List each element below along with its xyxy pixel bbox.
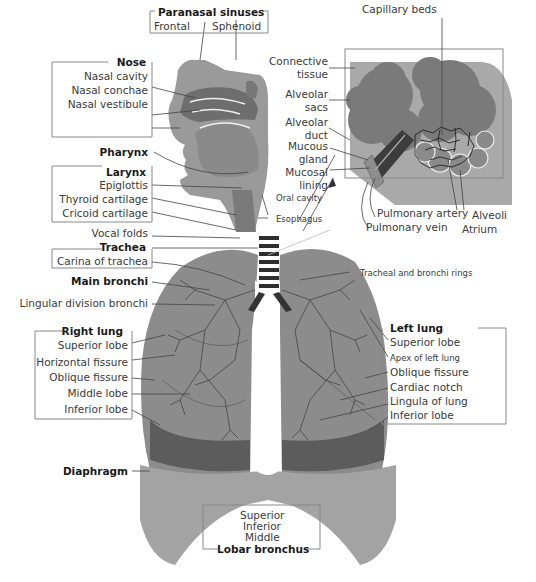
label-diaphragm: Diaphragm: [63, 465, 128, 478]
label-oral-cavity: Oral cavity: [276, 193, 322, 203]
label-cricoid-cartilage: Cricoid cartilage: [62, 207, 148, 220]
label-connective-tissue: Connective tissue: [248, 55, 328, 81]
label-tracheal-and-bronchi-rings: Tracheal and bronchi rings: [360, 268, 480, 278]
label-epiglottis: Epiglottis: [99, 179, 148, 192]
label-nasal-conchae: Nasal conchae: [71, 84, 148, 97]
label-left-oblique-fissure: Oblique fissure: [390, 366, 469, 379]
label-esophagus: Esophagus: [276, 214, 322, 224]
label-cardiac-notch: Cardiac notch: [390, 381, 463, 394]
label-carina-of-trachea: Carina of trachea: [57, 255, 148, 268]
label-alveoli: Alveoli: [472, 209, 507, 222]
label-atrium: Atrium: [462, 223, 497, 236]
respiratory-system-diagram: Paranasal sinuses Frontal Sphenoid Nose …: [0, 0, 536, 582]
label-alveolar-duct: Alveolar duct: [268, 116, 328, 142]
label-left-superior-lobe: Superior lobe: [390, 336, 460, 349]
alveoli-inset: [345, 49, 512, 205]
label-left-lung: Left lung: [390, 322, 443, 335]
label-pulmonary-vein: Pulmonary vein: [366, 221, 448, 234]
label-apex-of-left-lung: Apex of left lung: [390, 353, 460, 363]
label-frontal: Frontal: [154, 20, 190, 33]
label-trachea: Trachea: [100, 241, 146, 254]
label-nose: Nose: [117, 56, 146, 69]
label-lobar-bronchus: Lobar bronchus: [217, 543, 309, 556]
label-capillary-beds: Capillary beds: [362, 3, 437, 16]
label-right-inferior-lobe: Inferior lobe: [64, 403, 128, 416]
label-alveolar-sacs: Alveolar sacs: [268, 88, 328, 114]
label-right-superior-lobe: Superior lobe: [58, 339, 128, 352]
label-nasal-vestibule: Nasal vestibule: [68, 98, 148, 111]
head-neck: [168, 60, 268, 232]
label-larynx: Larynx: [106, 166, 146, 179]
label-main-bronchi: Main bronchi: [71, 275, 148, 288]
label-right-oblique-fissure: Oblique fissure: [49, 371, 128, 384]
label-paranasal-sinuses: Paranasal sinuses: [158, 6, 264, 19]
label-mucous-gland: Mucous gland: [268, 140, 328, 166]
label-lingular-division-bronchi: Lingular division bronchi: [20, 297, 148, 310]
label-pharynx: Pharynx: [99, 146, 148, 159]
label-left-inferior-lobe: Inferior lobe: [390, 409, 454, 422]
label-nasal-cavity: Nasal cavity: [84, 70, 148, 83]
label-vocal-folds: Vocal folds: [92, 227, 148, 240]
label-right-lung: Right lung: [62, 325, 123, 338]
label-mucosal-lining: Mucosal lining: [268, 166, 328, 192]
label-sphenoid: Sphenoid: [212, 20, 261, 33]
label-middle-lobe: Middle lobe: [68, 387, 129, 400]
label-pulmonary-artery: Pulmonary artery: [377, 207, 468, 220]
label-lingula-of-lung: Lingula of lung: [390, 395, 468, 408]
label-thyroid-cartilage: Thyroid cartilage: [59, 193, 148, 206]
label-horizontal-fissure: Horizontal fissure: [36, 356, 128, 369]
